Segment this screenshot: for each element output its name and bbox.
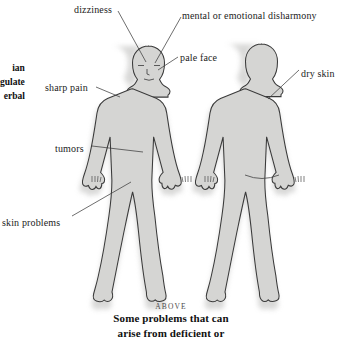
leader-sharp-pain — [96, 87, 120, 97]
label-skin-problems: skin problems — [2, 217, 60, 228]
label-sharp-pain: sharp pain — [45, 82, 88, 93]
illustration-page: dizziness mental or emotional disharmony… — [0, 0, 342, 344]
label-mental-or-emotional-disharmony: mental or emotional disharmony — [182, 10, 317, 21]
margin-note: ian gulate erbal — [0, 61, 25, 103]
caption-line-1: Some problems that can — [0, 311, 342, 326]
label-pale-face: pale face — [180, 52, 217, 63]
margin-note-line-1: ian — [0, 61, 25, 75]
back-figure — [193, 44, 304, 310]
label-tumors: tumors — [55, 143, 84, 154]
anatomy-figures-svg — [0, 0, 342, 344]
label-dizziness: dizziness — [74, 4, 112, 15]
front-figure — [80, 46, 191, 310]
margin-note-line-2: gulate — [0, 75, 25, 89]
label-dry-skin: dry skin — [301, 68, 335, 79]
leader-mental-disharmony — [155, 17, 181, 63]
caption-line-2: arise from deficient or — [0, 326, 342, 341]
margin-note-line-3: erbal — [0, 89, 25, 103]
caption: ABOVE Some problems that can arise from … — [0, 302, 342, 341]
caption-kicker: ABOVE — [0, 302, 342, 311]
